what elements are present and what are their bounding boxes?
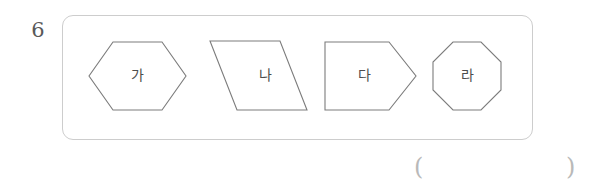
shape-label-octagon: 라 — [432, 68, 502, 82]
answer-blank[interactable]: ( ) — [410, 152, 590, 182]
answer-open-paren: ( — [414, 152, 423, 182]
shape-label-hexagon: 가 — [88, 68, 187, 82]
shape-label-parallelogram: 나 — [216, 68, 315, 82]
answer-close-paren: ) — [566, 152, 575, 182]
worksheet-problem: 6 가 나 다 라 — [0, 0, 599, 188]
problem-number: 6 — [25, 16, 51, 44]
shape-label-pentagon: 다 — [324, 68, 404, 82]
